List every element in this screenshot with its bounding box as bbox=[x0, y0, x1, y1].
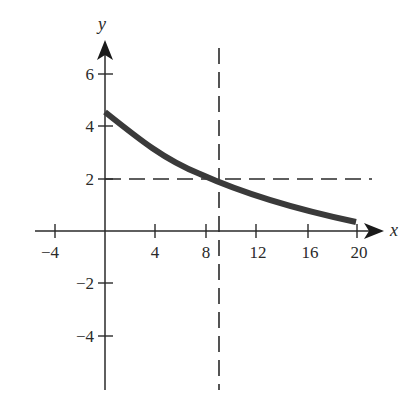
y-tick-label: 2 bbox=[86, 170, 95, 189]
x-tick-label: 20 bbox=[351, 243, 368, 262]
x-axis-label: x bbox=[389, 220, 398, 240]
y-tick-label: 4 bbox=[86, 117, 95, 136]
y-tick-label: −4 bbox=[76, 327, 95, 346]
x-tick-label: 12 bbox=[250, 243, 267, 262]
x-tick-label: 4 bbox=[151, 243, 160, 262]
y-tick-label: 6 bbox=[86, 65, 95, 84]
chart: −4 4 8 12 16 20 6 4 2 −2 −4 x y bbox=[0, 0, 418, 408]
y-tick-label: −2 bbox=[76, 274, 94, 293]
curve-line bbox=[105, 112, 356, 222]
x-tick-label: 8 bbox=[202, 243, 211, 262]
y-axis-label: y bbox=[96, 14, 106, 34]
x-tick-label: 16 bbox=[302, 243, 319, 262]
x-tick-label: −4 bbox=[41, 243, 60, 262]
